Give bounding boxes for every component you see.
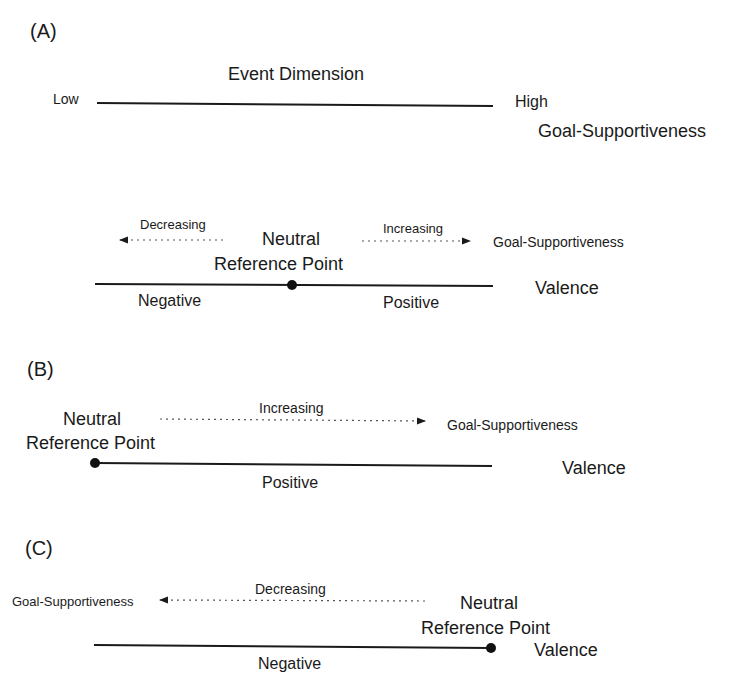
reference-point-label: Reference Point [421, 618, 550, 638]
panel-a-label: (A) [30, 20, 57, 42]
panel-b-label: (B) [27, 358, 54, 380]
diagram-canvas: (A) Event Dimension Low High Goal-Suppor… [0, 0, 729, 683]
panel-b: (B) Neutral Reference Point Increasing G… [26, 358, 626, 491]
neutral-label: Neutral [262, 229, 320, 249]
valence-axis-label: Valence [535, 278, 599, 298]
valence-axis-label: Valence [534, 640, 598, 660]
increasing-label: Increasing [383, 221, 443, 236]
decreasing-label: Decreasing [255, 581, 326, 597]
panel-c-label: (C) [25, 537, 53, 559]
event-dimension-axis [97, 103, 493, 106]
reference-point-label: Reference Point [26, 433, 155, 453]
neutral-label: Neutral [460, 593, 518, 613]
goal-supportiveness-label: Goal-Supportiveness [493, 234, 624, 250]
valence-axis [95, 463, 492, 466]
negative-label: Negative [138, 292, 201, 309]
neutral-point-marker [90, 458, 100, 468]
increasing-arrow-icon [160, 419, 425, 421]
valence-axis [94, 645, 491, 648]
neutral-point-marker [486, 643, 496, 653]
positive-label: Positive [383, 294, 439, 311]
event-dimension-title: Event Dimension [228, 64, 364, 84]
neutral-point-marker [287, 280, 297, 290]
decreasing-arrow-icon [160, 600, 425, 601]
panel-c: (C) Decreasing Goal-Supportiveness Neutr… [12, 537, 598, 672]
neutral-label: Neutral [63, 409, 121, 429]
goal-supportiveness-label: Goal-Supportiveness [12, 594, 134, 609]
negative-label: Negative [258, 655, 321, 672]
reference-point-label: Reference Point [214, 254, 343, 274]
panel-a: (A) Event Dimension Low High Goal-Suppor… [30, 20, 706, 311]
goal-supportiveness-axis-label: Goal-Supportiveness [538, 121, 706, 141]
low-label: Low [53, 91, 80, 107]
decreasing-label: Decreasing [140, 217, 206, 232]
valence-axis-label: Valence [562, 458, 626, 478]
increasing-label: Increasing [259, 400, 324, 416]
high-label: High [515, 93, 548, 110]
positive-label: Positive [262, 474, 318, 491]
goal-supportiveness-label: Goal-Supportiveness [447, 417, 578, 433]
